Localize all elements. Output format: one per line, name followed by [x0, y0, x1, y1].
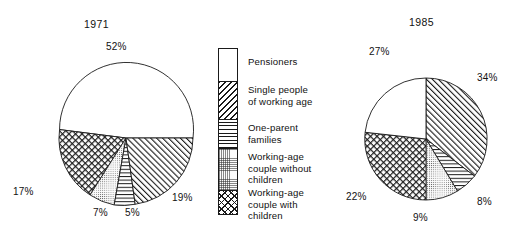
legend-swatch-pensioners — [219, 49, 237, 82]
legend-label-pensioners: Pensioners — [248, 56, 298, 68]
pie-1985-label-couple-without-children: 9% — [413, 212, 428, 223]
chart-title-1971: 1971 — [84, 18, 109, 30]
pie-1971-label-pensioners: 52% — [106, 41, 127, 52]
legend-swatch-couple-without-children — [219, 149, 237, 191]
legend-label-couple-with-children: Working-age couple with children — [248, 187, 304, 222]
legend-swatch-one-parent-families — [219, 120, 237, 149]
legend-swatch-couple-with-children — [219, 191, 237, 214]
pie-1985-label-pensioners: 27% — [369, 46, 390, 57]
slice-1971-pensioners — [60, 62, 194, 138]
slice-1985-couple-with-children — [365, 132, 426, 200]
legend-label-couple-without-children: Working-age couple without children — [248, 151, 311, 186]
pie-1985-label-one-parent-families: 8% — [477, 196, 492, 207]
pie-1971-label-one-parent-families: 5% — [125, 207, 140, 218]
pie-1971 — [56, 68, 196, 208]
chart-title-1985: 1985 — [409, 16, 434, 28]
legend-swatch-single-people — [219, 82, 237, 120]
pie-1971-label-couple-without-children: 7% — [93, 207, 108, 218]
pie-chart-figure: 1971 — [0, 0, 510, 238]
pie-1985-label-single-people: 34% — [477, 72, 498, 83]
legend — [218, 48, 238, 215]
legend-label-single-people: Single people of working age — [248, 84, 313, 107]
legend-label-one-parent-families: One-parent families — [248, 122, 298, 145]
pie-1985-label-couple-with-children: 22% — [346, 191, 367, 202]
slice-1985-pensioners — [365, 78, 426, 139]
pie-1971-label-couple-with-children: 17% — [13, 186, 34, 197]
pie-1985 — [364, 77, 488, 201]
pie-1971-label-single-people: 19% — [172, 192, 193, 203]
